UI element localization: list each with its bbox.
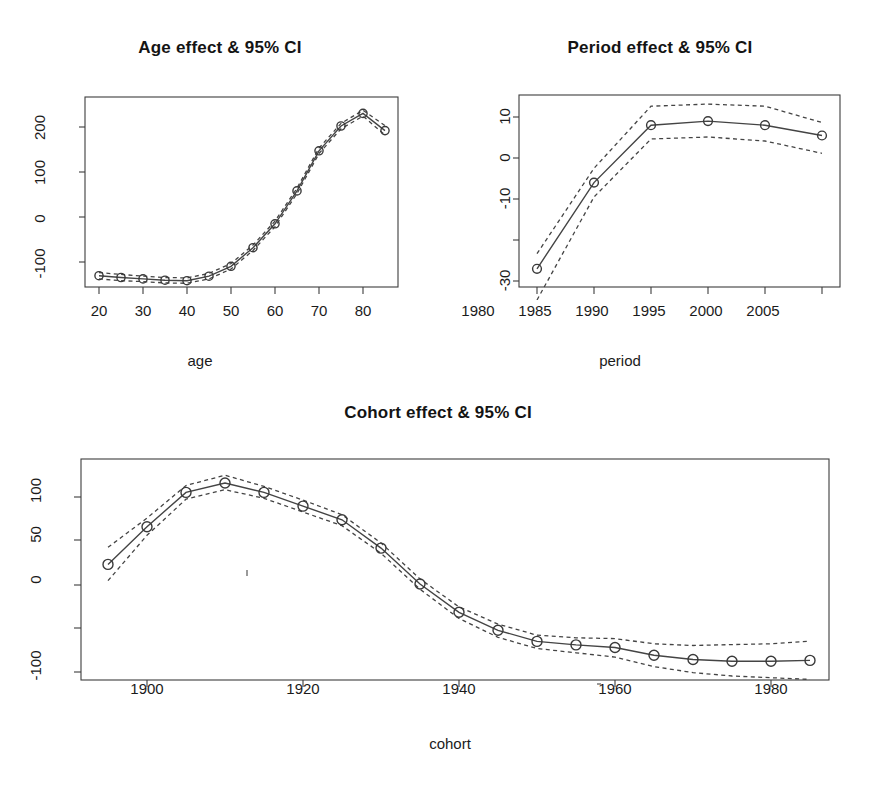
age-xtick-50: 50 [211,302,251,319]
cohort-xaxis-label: cohort [395,735,505,752]
period-xtick-1995: 1995 [619,302,679,319]
period-xtick-1985: 1985 [505,302,565,319]
period-xtick-2000: 2000 [676,302,736,319]
figure-canvas: Age effect & 95% CI 200 100 0 -100 20 30… [0,0,876,790]
period-xtick-1980: 1980 [448,302,508,319]
age-xtick-80: 80 [343,302,383,319]
age-xtick-70: 70 [299,302,339,319]
age-plot-area [0,0,440,300]
age-xtick-60: 60 [255,302,295,319]
scan-speck [246,570,248,576]
age-xtick-40: 40 [167,302,207,319]
period-plot-area [440,0,876,300]
age-xtick-20: 20 [79,302,119,319]
panel-period: Period effect & 95% CI 10 0 -10 -30 1980… [440,0,876,395]
cohort-plot-area [0,395,876,695]
panel-age: Age effect & 95% CI 200 100 0 -100 20 30… [0,0,440,395]
age-xtick-30: 30 [123,302,163,319]
period-xtick-1990: 1990 [562,302,622,319]
scan-speck-2 [597,683,601,685]
age-xaxis-label: age [145,352,255,369]
period-xaxis-label: period [565,352,675,369]
panel-cohort: Cohort effect & 95% CI 100 50 0 -100 190… [0,395,876,790]
period-xtick-2005: 2005 [733,302,793,319]
